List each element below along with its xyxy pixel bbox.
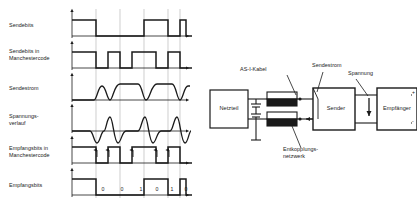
block-diagram-graphics <box>205 0 417 205</box>
timing-diagram: Sendebits Sendebits in Manchestercode Se… <box>0 0 205 205</box>
block-diagram: Netzteil Sender Empfänger AS-I-Kabel Sen… <box>205 0 417 205</box>
received-bit-2: 1 <box>136 186 146 192</box>
received-bit-0: 0 <box>98 186 108 192</box>
callout-as-i-kabel: AS-I-Kabel <box>240 66 267 73</box>
figure-root: Sendebits Sendebits in Manchestercode Se… <box>0 0 417 205</box>
decoupling-inductor-lower <box>267 112 297 126</box>
decoupling-inductor-upper <box>267 92 297 106</box>
waveform-empfangsbits-manchester <box>72 139 192 165</box>
received-bit-3: 0 <box>152 186 162 192</box>
terminal-plus: + <box>412 89 415 95</box>
received-bit-5: 0 <box>181 186 191 192</box>
bit-gridlines <box>96 9 180 198</box>
timing-waveforms <box>0 0 205 205</box>
block-label-empfaenger: Empfänger <box>377 105 417 111</box>
block-label-netzteil: Netzteil <box>210 105 248 111</box>
callout-spannung: Spannung <box>348 70 373 77</box>
received-bit-4: 1 <box>167 186 177 192</box>
junction-dot-upper <box>298 97 301 100</box>
junction-dot-lower <box>298 117 301 120</box>
waveform-sendestrom <box>72 76 190 102</box>
block-label-sender: Sender <box>316 105 356 111</box>
waveform-empfangsbits <box>72 171 192 197</box>
callout-entkopplungsnetzwerk: Entkopplungs- netzwerk <box>283 146 318 160</box>
terminal-minus: - <box>412 118 414 124</box>
waveform-sendebits-manchester <box>72 44 192 70</box>
waveform-sendebits <box>72 12 192 38</box>
callout-sendestrom: Sendestrom <box>312 62 342 69</box>
received-bit-1: 0 <box>117 186 127 192</box>
waveform-spannungsverlauf <box>72 107 191 143</box>
